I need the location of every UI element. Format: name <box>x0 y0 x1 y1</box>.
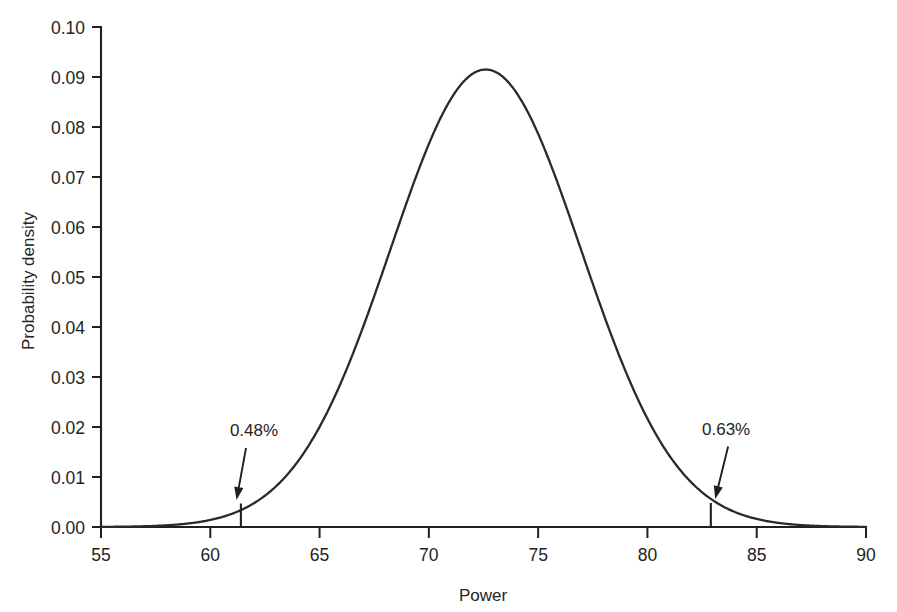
probability-density-chart: 0.000.010.020.030.040.050.060.070.080.09… <box>0 0 897 612</box>
y-axis-title: Probability density <box>19 212 38 350</box>
y-tick-label: 0.10 <box>51 18 85 38</box>
x-tick-label: 80 <box>638 545 658 565</box>
y-tick-label: 0.00 <box>51 518 85 538</box>
y-tick-label: 0.05 <box>51 268 85 288</box>
x-tick-label: 90 <box>856 545 876 565</box>
y-tick-label: 0.01 <box>51 468 85 488</box>
x-tick-label: 85 <box>747 545 766 565</box>
chart-canvas: 0.000.010.020.030.040.050.060.070.080.09… <box>0 0 897 612</box>
y-tick-label: 0.03 <box>51 368 85 388</box>
y-tick-label: 0.09 <box>51 68 85 88</box>
x-tick-label: 55 <box>91 545 110 565</box>
x-tick-label: 70 <box>419 545 439 565</box>
x-axis-title: Power <box>459 586 508 605</box>
y-tick-label: 0.04 <box>51 318 85 338</box>
y-tick-label: 0.07 <box>51 168 85 188</box>
x-tick-label: 65 <box>310 545 329 565</box>
y-tick-label: 0.06 <box>51 218 85 238</box>
tail-probability-label: 0.48% <box>230 421 278 440</box>
y-tick-label: 0.08 <box>51 118 85 138</box>
tail-probability-label: 0.63% <box>702 420 750 439</box>
y-tick-label: 0.02 <box>51 418 85 438</box>
x-tick-label: 75 <box>528 545 547 565</box>
x-tick-label: 60 <box>201 545 221 565</box>
